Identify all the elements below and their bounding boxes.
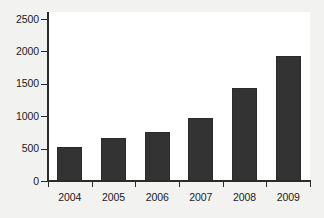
y-axis-tick: [41, 19, 48, 20]
x-axis-tick: [310, 182, 311, 187]
x-axis-tick: [92, 182, 93, 187]
y-axis-tick: [41, 149, 48, 150]
y-axis-tick-label: 500: [22, 143, 39, 154]
y-axis-tick: [41, 51, 48, 52]
y-axis-tick-label: 1000: [16, 111, 39, 122]
bar: [276, 56, 301, 181]
x-axis-tick-label: 2004: [48, 192, 92, 203]
x-axis-tick-label: 2008: [223, 192, 267, 203]
y-axis-tick-label: 1500: [16, 78, 39, 89]
bar-chart-figure: 05001000150020002500 2004200520062007200…: [0, 0, 324, 218]
y-axis-tick: [41, 84, 48, 85]
x-axis-tick-label: 2007: [179, 192, 223, 203]
bar: [232, 88, 257, 181]
x-axis-tick: [48, 182, 49, 187]
x-axis-tick: [223, 182, 224, 187]
bar: [101, 138, 126, 181]
y-axis-tick-label: 2500: [16, 14, 39, 25]
x-axis-tick-label: 2006: [135, 192, 179, 203]
bar: [57, 147, 82, 181]
y-axis-tick: [41, 116, 48, 117]
y-axis-tick: [41, 181, 48, 182]
x-axis-tick-label: 2005: [92, 192, 136, 203]
x-axis-tick-label: 2009: [266, 192, 310, 203]
x-axis-tick: [179, 182, 180, 187]
x-axis-tick: [135, 182, 136, 187]
y-axis-tick-label: 0: [33, 176, 39, 187]
bar: [188, 118, 213, 181]
x-axis-tick: [266, 182, 267, 187]
bar: [145, 132, 170, 181]
y-axis-tick-label: 2000: [16, 46, 39, 57]
y-axis-line: [47, 12, 49, 182]
plot-area: [48, 12, 310, 181]
